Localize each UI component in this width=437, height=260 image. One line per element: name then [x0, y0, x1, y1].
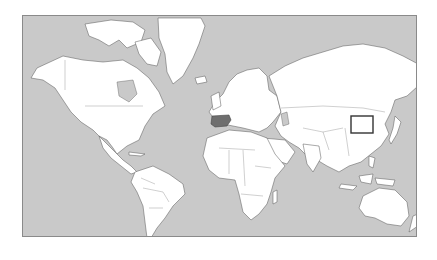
- new-zealand: [409, 214, 417, 232]
- baffin-island: [135, 38, 161, 66]
- madagascar: [273, 190, 277, 204]
- indonesia: [339, 174, 395, 190]
- australia: [359, 188, 409, 226]
- north-america: [31, 56, 165, 154]
- japan: [389, 116, 401, 144]
- world-map-svg: [23, 16, 417, 237]
- philippines: [369, 156, 375, 168]
- cuba: [129, 152, 145, 156]
- iceland: [195, 76, 207, 84]
- south-america: [131, 166, 185, 237]
- world-map: [22, 15, 417, 237]
- greenland: [158, 18, 205, 84]
- india: [303, 144, 321, 172]
